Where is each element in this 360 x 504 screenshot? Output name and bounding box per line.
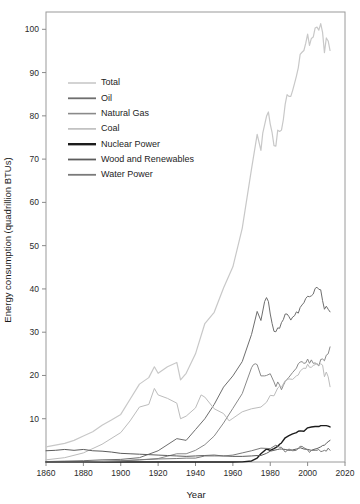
x-tick-label: 1900	[111, 468, 130, 478]
y-tick-label: 20	[30, 370, 40, 380]
energy-consumption-chart: 102030405060708090100 186018801900192019…	[0, 0, 360, 504]
legend-label: Total	[101, 77, 120, 87]
y-tick-label: 30	[30, 327, 40, 337]
x-tick-label: 1860	[37, 468, 56, 478]
y-tick-label: 50	[30, 241, 40, 251]
y-tick-label: 60	[30, 197, 40, 207]
legend-label: Oil	[101, 93, 112, 103]
x-tick-label: 1980	[261, 468, 280, 478]
series-line	[46, 24, 330, 447]
x-tick-label: 1920	[149, 468, 168, 478]
series-line	[46, 363, 330, 459]
x-tick-label: 1960	[223, 468, 242, 478]
x-tick-label: 1940	[186, 468, 205, 478]
y-tick-label: 10	[30, 414, 40, 424]
chart-canvas: 102030405060708090100 186018801900192019…	[0, 0, 360, 504]
series-line	[46, 287, 330, 461]
chart-legend: TotalOilNatural GasCoalNuclear PowerWood…	[68, 77, 194, 179]
legend-label: Water Power	[101, 169, 153, 179]
legend-label: Coal	[101, 123, 120, 133]
legend-label: Natural Gas	[101, 108, 150, 118]
series-line	[46, 440, 330, 456]
y-tick-label: 40	[30, 284, 40, 294]
x-tick-label: 2020	[336, 468, 355, 478]
series-line	[46, 347, 330, 462]
legend-label: Nuclear Power	[101, 139, 160, 149]
plot-frame	[46, 12, 345, 462]
y-axis-title: Energy consumption (quadrillion BTUs)	[2, 157, 13, 322]
legend-label: Wood and Renewables	[101, 154, 194, 164]
y-tick-label: 100	[25, 24, 39, 34]
y-tick-label: 70	[30, 154, 40, 164]
y-tick-label: 90	[30, 68, 40, 78]
series-lines	[46, 24, 330, 462]
x-tick-label: 2000	[298, 468, 317, 478]
x-axis-ticks: 186018801900192019401960198020002020	[37, 462, 355, 478]
y-tick-label: 80	[30, 111, 40, 121]
x-tick-label: 1880	[74, 468, 93, 478]
y-axis-ticks: 102030405060708090100	[25, 24, 46, 423]
x-axis-title: Year	[186, 489, 205, 500]
